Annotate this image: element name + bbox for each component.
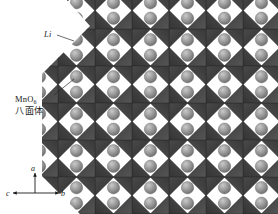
li-sphere-body	[144, 34, 156, 46]
li-sphere	[70, 71, 82, 83]
li-sphere-body	[144, 108, 156, 120]
li-sphere	[255, 86, 267, 98]
li-sphere	[181, 182, 193, 194]
li-sphere	[181, 197, 193, 209]
li-sphere-body	[107, 145, 119, 157]
octahedron-face	[40, 11, 59, 30]
li-sphere-body	[218, 12, 230, 24]
li-sphere	[107, 34, 119, 46]
li-sphere-body	[33, 145, 45, 157]
li-sphere	[107, 160, 119, 172]
li-sphere-body	[107, 49, 119, 61]
octahedron-outline	[3, 0, 40, 11]
li-sphere-body	[70, 145, 82, 157]
li-sphere	[33, 12, 45, 24]
li-sphere	[181, 0, 193, 9]
li-sphere-body	[70, 197, 82, 209]
li-sphere-body	[70, 123, 82, 135]
li-sphere-body	[107, 108, 119, 120]
li-sphere	[218, 123, 230, 135]
axis-b-label: b	[61, 189, 65, 198]
li-sphere	[33, 49, 45, 61]
octahedron-face	[21, 122, 40, 141]
li-sphere	[218, 182, 230, 194]
li-sphere	[181, 86, 193, 98]
octahedron-face	[3, 0, 22, 11]
label-mno6-chinese: 八面体	[15, 106, 44, 116]
li-sphere	[255, 197, 267, 209]
li-sphere-body	[33, 123, 45, 135]
li-sphere-body	[144, 160, 156, 172]
li-sphere-body	[144, 49, 156, 61]
axis-c-label: c	[6, 189, 10, 198]
octahedron-face	[3, 122, 22, 141]
mno6-octahedron	[3, 122, 40, 159]
li-sphere-body	[181, 0, 193, 9]
li-sphere-body	[33, 71, 45, 83]
octahedron-face	[3, 140, 22, 159]
axis-indicator: a b c	[4, 160, 70, 208]
octahedron-face	[40, 48, 59, 67]
li-sphere	[218, 86, 230, 98]
label-mno6-main: MnO	[15, 94, 34, 104]
li-sphere-body	[181, 197, 193, 209]
li-sphere-body	[144, 12, 156, 24]
li-sphere	[70, 123, 82, 135]
li-sphere	[218, 34, 230, 46]
li-sphere-body	[107, 197, 119, 209]
li-sphere	[144, 49, 156, 61]
li-sphere-body	[70, 71, 82, 83]
li-sphere	[144, 71, 156, 83]
li-sphere	[255, 0, 267, 9]
li-sphere	[70, 49, 82, 61]
li-sphere-body	[181, 86, 193, 98]
li-sphere-body	[181, 182, 193, 194]
li-sphere	[255, 49, 267, 61]
li-sphere	[70, 86, 82, 98]
li-sphere	[218, 145, 230, 157]
li-sphere-body	[218, 182, 230, 194]
axis-triad-svg	[4, 160, 70, 208]
li-sphere-body	[181, 49, 193, 61]
li-sphere	[70, 0, 82, 9]
li-sphere	[107, 86, 119, 98]
li-sphere-body	[144, 71, 156, 83]
li-sphere	[70, 197, 82, 209]
li-sphere-body	[255, 34, 267, 46]
li-sphere-body	[255, 160, 267, 172]
li-sphere-body	[255, 71, 267, 83]
li-sphere	[255, 12, 267, 24]
li-sphere	[181, 160, 193, 172]
octahedron-face	[21, 0, 40, 11]
octahedron-face	[3, 66, 22, 85]
li-sphere	[218, 160, 230, 172]
label-mno6: MnO6 八面体	[15, 95, 44, 116]
li-sphere	[107, 0, 119, 9]
li-sphere-body	[144, 182, 156, 194]
li-sphere-body	[70, 34, 82, 46]
li-sphere-body	[218, 0, 230, 9]
li-sphere	[144, 12, 156, 24]
li-sphere-body	[255, 108, 267, 120]
li-sphere	[218, 49, 230, 61]
li-sphere	[181, 123, 193, 135]
li-sphere-body	[218, 34, 230, 46]
li-sphere-body	[255, 12, 267, 24]
li-sphere-body	[218, 160, 230, 172]
li-sphere	[144, 34, 156, 46]
li-sphere	[218, 0, 230, 9]
li-sphere	[107, 49, 119, 61]
li-sphere	[144, 182, 156, 194]
li-sphere-body	[255, 145, 267, 157]
octahedron-face	[3, 48, 22, 67]
li-sphere-body	[107, 0, 119, 9]
li-sphere	[144, 108, 156, 120]
li-sphere-body	[181, 71, 193, 83]
octahedron-face	[21, 29, 40, 48]
li-sphere	[181, 49, 193, 61]
li-sphere	[255, 145, 267, 157]
li-sphere	[181, 108, 193, 120]
li-sphere-body	[255, 197, 267, 209]
mno6-octahedron	[3, 0, 40, 11]
li-sphere-body	[181, 145, 193, 157]
